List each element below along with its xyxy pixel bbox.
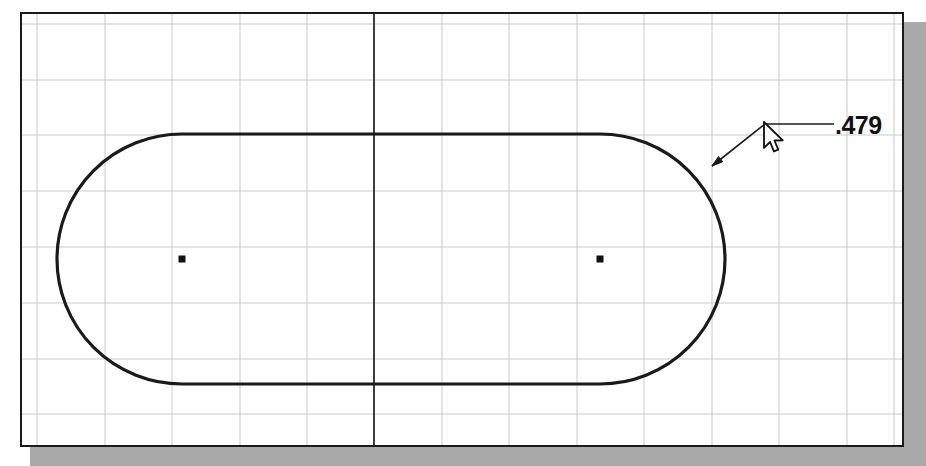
left-arc-center-point[interactable] [179,256,186,263]
cad-drawing-window[interactable]: .479 [20,12,904,447]
grid-vertical-lines [37,14,894,445]
dimension-value-label[interactable]: .479 [835,111,882,139]
grid-horizontal-lines [22,24,902,414]
mouse-cursor-arrow-icon [764,122,783,151]
slot-profile-path[interactable] [57,134,725,384]
screenshot-root: .479 [0,0,926,466]
drawing-canvas[interactable]: .479 [22,14,902,445]
right-arc-center-point[interactable] [597,256,604,263]
slot-outline[interactable] [57,134,725,384]
